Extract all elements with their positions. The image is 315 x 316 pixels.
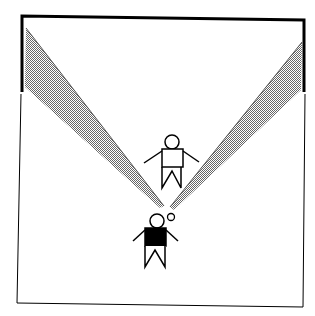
diagram-canvas [0, 0, 315, 316]
figure-standing [144, 135, 199, 188]
figure-viewer [133, 214, 178, 267]
diagram [0, 0, 315, 316]
sight-cone-left [25, 28, 164, 208]
eye-point [168, 214, 175, 221]
